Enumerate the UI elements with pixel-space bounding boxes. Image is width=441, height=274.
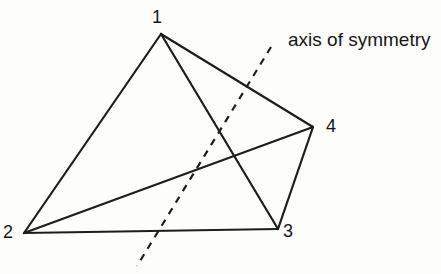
vertex-label-3: 3 bbox=[283, 222, 293, 240]
vertex-label-1: 1 bbox=[152, 8, 162, 26]
edge-3-4 bbox=[278, 127, 313, 229]
edge-2-3 bbox=[24, 229, 278, 233]
figure-canvas: 1234 axis of symmetry bbox=[0, 0, 441, 274]
vertex-label-2: 2 bbox=[3, 223, 13, 241]
vertex-label-4: 4 bbox=[326, 117, 336, 135]
axis-of-symmetry-label: axis of symmetry bbox=[288, 29, 431, 51]
axis-of-symmetry-line bbox=[137, 47, 271, 266]
edges-group bbox=[24, 34, 313, 233]
edge-1-2 bbox=[24, 34, 161, 233]
